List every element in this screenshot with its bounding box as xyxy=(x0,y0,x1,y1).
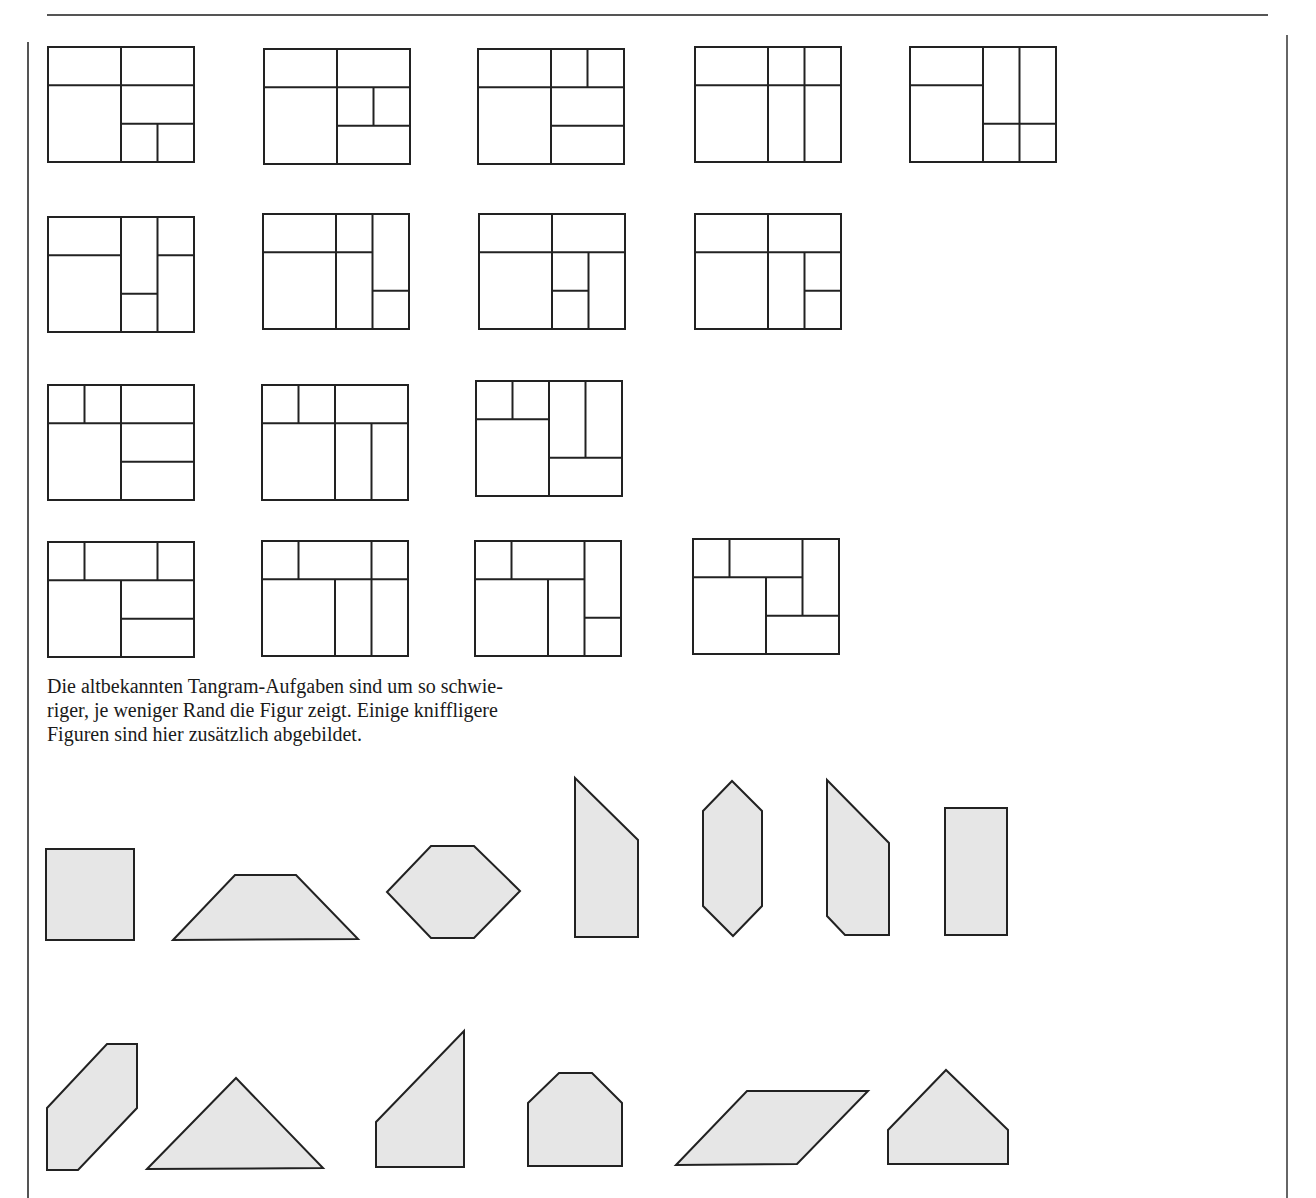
silhouette-rectangle xyxy=(945,808,1007,935)
silhouette-tall-pentagon-a xyxy=(575,778,638,937)
silhouette-right-trapezoid xyxy=(376,1031,464,1167)
silhouette-hexagon xyxy=(387,846,520,938)
silhouette-square xyxy=(46,849,134,940)
silhouette-house-pentagon xyxy=(888,1070,1008,1164)
silhouette-tall-pentagon-b xyxy=(827,780,889,935)
tangram-silhouettes xyxy=(0,0,1316,1198)
silhouette-long-hexagon xyxy=(703,781,762,936)
silhouette-trapezoid xyxy=(173,875,358,940)
silhouette-triangle xyxy=(147,1078,323,1169)
silhouette-parallelogram xyxy=(676,1091,868,1165)
silhouette-slanted-hexagon xyxy=(47,1044,137,1170)
silhouette-house-octagon xyxy=(528,1073,622,1166)
